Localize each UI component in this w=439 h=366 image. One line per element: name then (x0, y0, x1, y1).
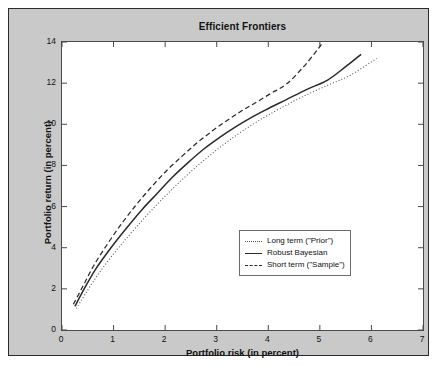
legend-item[interactable]: Robust Bayesian (243, 247, 346, 259)
legend-item[interactable]: Short term ("Sample") (243, 259, 346, 271)
legend-line-swatch-short-term (243, 260, 263, 270)
figure-panel: Efficient Frontiers 02468101214 01234567… (8, 8, 429, 356)
legend-line-swatch-long-term (243, 236, 263, 246)
x-tick-label: 4 (257, 335, 277, 344)
x-tick-label: 7 (412, 335, 432, 344)
x-tick-label: 1 (103, 335, 123, 344)
x-tick-label: 6 (360, 335, 380, 344)
y-tick-label: 14 (34, 37, 56, 46)
x-axis-label: Portfolio risk (in percent) (61, 347, 424, 358)
legend-label: Short term ("Sample") (267, 261, 345, 269)
chart-legend: Long term ("Prior") Robust Bayesian Shor… (239, 230, 351, 276)
chart-figure: Efficient Frontiers 02468101214 01234567… (0, 0, 439, 366)
legend-label: Long term ("Prior") (267, 237, 333, 245)
x-tick-label: 3 (206, 335, 226, 344)
y-axis-label: Portfolio return (in percent) (42, 63, 53, 303)
y-tick-label: 0 (34, 325, 56, 334)
x-tick-label: 5 (309, 335, 329, 344)
chart-title: Efficient Frontiers (61, 21, 424, 32)
plot-canvas (62, 42, 423, 330)
x-tick-label: 2 (154, 335, 174, 344)
legend-line-swatch-robust-bayesian (243, 248, 263, 258)
legend-label: Robust Bayesian (267, 249, 327, 257)
x-tick-label: 0 (51, 335, 71, 344)
legend-item[interactable]: Long term ("Prior") (243, 235, 346, 247)
plot-area (61, 41, 424, 331)
